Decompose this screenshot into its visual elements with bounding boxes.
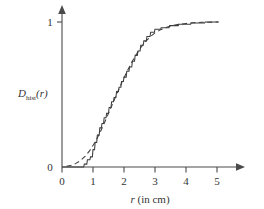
empirical-cdf-curve <box>62 22 219 167</box>
figure-container: 1 0 0 1 2 3 4 5 Dhist(r) r (in cm) <box>0 0 264 209</box>
y-axis-label-main: D <box>17 87 26 99</box>
x-tick-label-0: 0 <box>59 175 65 187</box>
theoretical-cdf-curve <box>67 22 219 166</box>
x-tick-label-2: 2 <box>121 175 127 187</box>
y-axis-arrowhead <box>58 5 66 14</box>
x-tick-label-4: 4 <box>183 175 189 187</box>
x-tick-label-1: 1 <box>90 175 96 187</box>
x-axis-label: r (in cm) <box>130 193 169 206</box>
cdf-plot: 1 0 0 1 2 3 4 5 Dhist(r) r (in cm) <box>0 0 264 209</box>
y-axis-label-subscript: hist <box>26 94 36 102</box>
x-tick-label-3: 3 <box>152 175 158 187</box>
y-tick-label-1: 1 <box>47 16 53 28</box>
y-tick-label-0: 0 <box>47 161 53 173</box>
y-axis-label: Dhist(r) <box>17 87 48 102</box>
y-axis-label-arg: (r) <box>36 87 48 100</box>
x-tick-label-5: 5 <box>214 175 220 187</box>
x-axis-label-units: (in cm) <box>135 193 170 206</box>
x-axis-arrowhead <box>236 163 245 171</box>
